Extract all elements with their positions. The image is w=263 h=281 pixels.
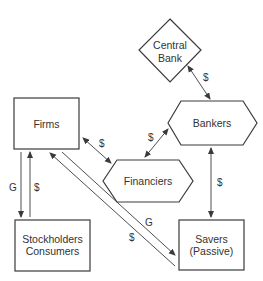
edge-firms-financiers: $ — [83, 138, 111, 163]
edge-label: $ — [148, 132, 154, 143]
node-savers: Savers (Passive) — [179, 220, 244, 270]
financiers-label: Financiers — [124, 175, 172, 187]
edge-label: G — [9, 182, 17, 193]
node-central-bank: Central Bank — [139, 19, 201, 82]
edge-label: $ — [34, 182, 40, 193]
edge-label: $ — [203, 72, 209, 83]
bankers-label: Bankers — [193, 117, 232, 129]
savers-label-line1: Savers — [195, 233, 228, 245]
edge-central-bank-bankers: $ — [188, 66, 210, 99]
edge-label: $ — [129, 232, 135, 243]
stockholders-label-line2: Consumers — [26, 245, 80, 257]
central-bank-label-line1: Central — [153, 39, 187, 51]
savers-label-line2: (Passive) — [190, 245, 234, 257]
edge-bankers-financiers: $ — [145, 129, 168, 157]
node-firms: Firms — [14, 98, 79, 149]
node-stockholders-consumers: Stockholders Consumers — [15, 220, 90, 271]
stockholders-label-line1: Stockholders — [22, 233, 83, 245]
money-flow-diagram: Central Bank Firms Bankers Financiers St… — [0, 0, 263, 281]
node-financiers: Financiers — [103, 160, 193, 202]
central-bank-label-line2: Bank — [158, 52, 183, 64]
node-bankers: Bankers — [168, 101, 257, 145]
edge-stockholders-firms-money: $ — [30, 152, 40, 217]
edge-label: $ — [99, 138, 105, 149]
edge-label: G — [145, 217, 153, 228]
edge-bankers-savers: $ — [211, 148, 223, 217]
edge-firms-stockholders-goods: G — [9, 152, 21, 217]
edge-label: $ — [217, 177, 223, 188]
firms-label: Firms — [33, 118, 59, 130]
